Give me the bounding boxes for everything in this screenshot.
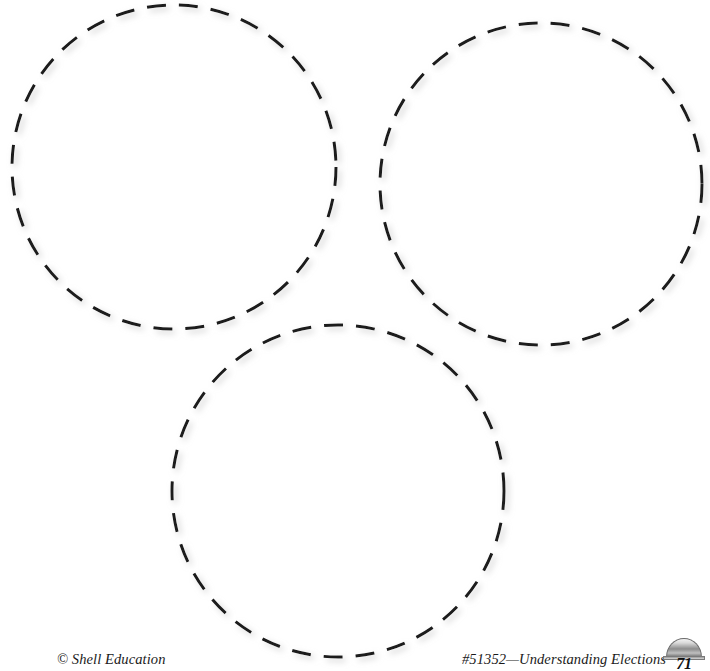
circle-top-right (380, 23, 702, 345)
footer-copyright: © Shell Education (57, 651, 166, 668)
page-number-badge: 71 (663, 638, 705, 671)
page-number: 71 (663, 657, 705, 671)
circle-top-left (12, 5, 336, 329)
circle-bottom (172, 325, 504, 657)
dashed-circles-group (0, 0, 710, 671)
footer-product-line: #51352—Understanding Elections (462, 651, 666, 668)
worksheet-page: © Shell Education #51352—Understanding E… (0, 0, 710, 671)
